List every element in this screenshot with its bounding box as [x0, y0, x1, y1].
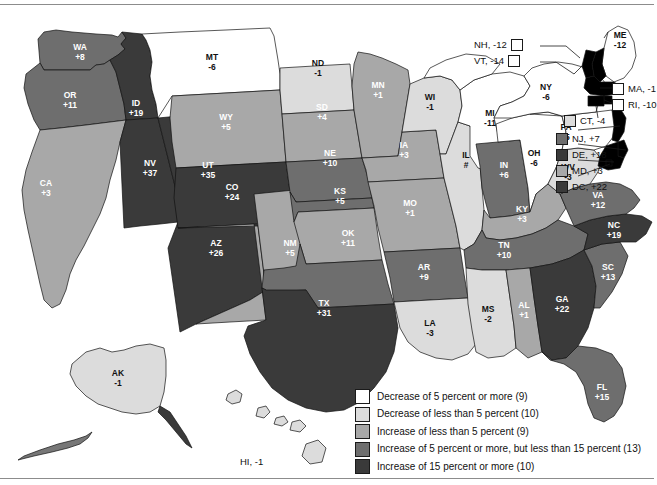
legend-swatch-increase-5-to-15 [355, 442, 370, 457]
callout-CT-label: CT, -4 [580, 116, 605, 126]
label-GA-abbr: GA [556, 294, 569, 304]
svg-text:NE+10: NE+10 [323, 148, 338, 168]
label-NY-abbr: NY [540, 82, 552, 92]
label-WA-value: +8 [75, 52, 85, 62]
label-AL-value: +1 [519, 310, 529, 320]
label-MS-value: -2 [484, 314, 492, 324]
callout-CT-swatch [564, 115, 576, 127]
svg-text:WA+8: WA+8 [73, 42, 87, 62]
label-MI-value: -11 [484, 118, 496, 128]
label-NM-abbr: NM [283, 238, 296, 248]
callout-DC-swatch [556, 181, 568, 193]
label-AZ-value: +26 [209, 248, 224, 258]
label-NE-value: +10 [323, 158, 338, 168]
svg-text:TX+31: TX+31 [317, 298, 332, 318]
label-IL-value: # [464, 160, 469, 170]
callout-DC[interactable]: DC, +22 [556, 181, 607, 193]
state-LA[interactable] [394, 298, 476, 360]
label-KY-value: +3 [517, 214, 527, 224]
svg-text:IA+3: IA+3 [399, 140, 409, 160]
label-AZ-abbr: AZ [210, 238, 221, 248]
callout-RI[interactable]: RI, -10 [612, 99, 657, 111]
callout-DC-label: DC, +22 [572, 182, 607, 192]
label-MN-abbr: MN [371, 80, 384, 90]
label-SC-abbr: SC [602, 262, 614, 272]
alaska-aleutians [18, 432, 92, 460]
legend-label-decrease-less-than-5: Decrease of less than 5 percent (10) [377, 409, 539, 419]
legend-swatch-increase-15-or-more [355, 459, 370, 474]
callout-MA[interactable]: MA, -1 [612, 83, 656, 95]
legend-swatch-decrease-5-or-more [355, 389, 370, 404]
label-WY-value: +5 [221, 122, 231, 132]
state-CA[interactable] [22, 120, 126, 308]
callout-CT[interactable]: CT, -4 [564, 115, 605, 127]
svg-text:NC+19: NC+19 [607, 220, 622, 240]
alaska-panhandle [158, 406, 192, 448]
label-AR-value: +9 [419, 272, 429, 282]
callout-MA-label: MA, -1 [628, 84, 656, 94]
label-IN-abbr: IN [500, 160, 509, 170]
label-CA-value: +3 [41, 188, 51, 198]
label-ME-value: -12 [614, 40, 627, 50]
label-WY-abbr: WY [219, 112, 233, 122]
label-AK-value: -1 [114, 378, 122, 388]
svg-text:TN+10: TN+10 [497, 240, 512, 260]
svg-text:KS+5: KS+5 [334, 186, 346, 206]
state-CT[interactable] [588, 96, 604, 106]
callout-RI-label: RI, -10 [628, 100, 657, 110]
label-NC-value: +19 [607, 230, 622, 240]
label-VA-value: +12 [591, 200, 606, 210]
legend-item-increase-5-to-15[interactable]: Increase of 5 percent or more, but less … [355, 441, 647, 459]
label-ME-abbr: ME [614, 30, 627, 40]
label-MO-abbr: MO [403, 198, 417, 208]
callout-MD[interactable]: MD, +3 [556, 165, 603, 177]
label-ND-abbr: ND [312, 58, 324, 68]
callout-DE[interactable]: DE, +18 [556, 149, 607, 161]
label-KS-value: +5 [335, 196, 345, 206]
svg-text:CO+24: CO+24 [225, 182, 240, 202]
callout-NJ-label: NJ, +7 [572, 134, 600, 144]
svg-text:CA+3: CA+3 [40, 178, 52, 198]
label-OR-abbr: OR [64, 90, 77, 100]
label-SD-value: +4 [317, 112, 327, 122]
label-TN-value: +10 [497, 250, 512, 260]
svg-text:KY+3: KY+3 [516, 204, 528, 224]
svg-text:AR+9: AR+9 [418, 262, 430, 282]
callout-NH[interactable]: NH, -12 [474, 39, 523, 51]
label-NV-value: +37 [143, 168, 158, 178]
label-UT-abbr: UT [202, 160, 214, 170]
legend-item-decrease-less-than-5[interactable]: Decrease of less than 5 percent (10) [355, 406, 647, 424]
label-MO-value: +1 [405, 208, 415, 218]
svg-text:IN+6: IN+6 [499, 160, 509, 180]
state-NJ[interactable] [612, 108, 626, 142]
label-ND-value: -1 [314, 68, 322, 78]
legend-item-increase-less-than-5[interactable]: Increase of less than 5 percent (9) [355, 423, 647, 441]
callout-NJ[interactable]: NJ, +7 [556, 133, 600, 145]
bottom-divider [0, 478, 654, 479]
label-KY-abbr: KY [516, 204, 528, 214]
label-AK-abbr: AK [112, 368, 125, 378]
svg-text:AL+1: AL+1 [518, 300, 529, 320]
label-MS-abbr: MS [482, 304, 495, 314]
label-MT-value: -6 [208, 62, 216, 72]
legend-item-decrease-5-or-more[interactable]: Decrease of 5 percent or more (9) [355, 388, 647, 406]
label-WI-abbr: WI [425, 92, 435, 102]
label-NE-abbr: NE [324, 148, 336, 158]
label-OK-abbr: OK [342, 228, 356, 238]
legend-label-increase-15-or-more: Increase of 15 percent or more (10) [377, 462, 534, 472]
label-IA-value: +3 [399, 150, 409, 160]
legend-item-increase-15-or-more[interactable]: Increase of 15 percent or more (10) [355, 458, 647, 476]
label-IN-value: +6 [499, 170, 509, 180]
label-TX-value: +31 [317, 308, 332, 318]
label-WI-value: -1 [426, 102, 434, 112]
label-CO-value: +24 [225, 192, 240, 202]
svg-text:SC+13: SC+13 [601, 262, 616, 282]
svg-text:NM+5: NM+5 [283, 238, 296, 258]
state-KS[interactable] [294, 208, 382, 264]
legend-label-increase-5-to-15: Increase of 5 percent or more, but less … [377, 444, 641, 454]
label-UT-value: +35 [201, 170, 216, 180]
legend-label-decrease-5-or-more: Decrease of 5 percent or more (9) [377, 392, 528, 402]
label-IA-abbr: IA [400, 140, 409, 150]
callout-VT[interactable]: VT, -14 [474, 55, 520, 67]
label-OH-value: -6 [530, 158, 538, 168]
